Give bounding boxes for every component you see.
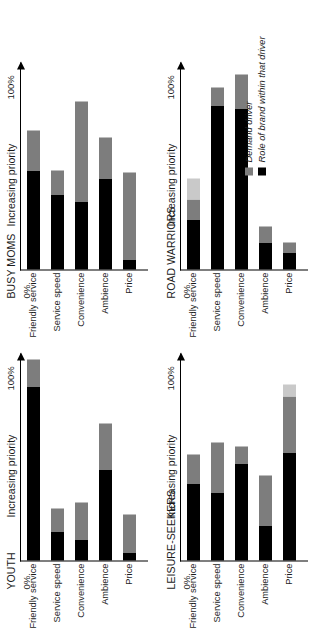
- bar-segment-demand-driver: [123, 172, 136, 259]
- bar-segment-demand-driver: [123, 514, 136, 551]
- bar-segment-role-of-brand: [75, 201, 88, 269]
- category-label: Price: [283, 563, 296, 584]
- axis-label: Increasing priority: [165, 143, 177, 226]
- category-label: Service speed: [51, 563, 64, 622]
- bar-segment-role-of-brand: [283, 452, 296, 560]
- value-axis-arrow: [180, 353, 181, 561]
- category-label: Friendly service: [27, 563, 40, 628]
- bar-segment-demand-driver: [211, 87, 224, 106]
- panel-leisure-seekers: LEISURE-SEEKERS Increasing priority 0% 1…: [163, 304, 327, 595]
- category-label: Price: [123, 272, 136, 293]
- bar-segment-demand-driver: [211, 442, 224, 492]
- legend-item: Role of brand within that driver: [257, 5, 267, 175]
- category-labels: Friendly service Service speed Convenien…: [180, 561, 308, 595]
- bar-segment-extra: [187, 178, 200, 199]
- bar-segment-role-of-brand: [211, 105, 224, 269]
- legend-label: Demand driver: [244, 101, 254, 162]
- bar-segment-role-of-brand: [51, 194, 64, 269]
- bar: [211, 87, 224, 269]
- bar-segment-role-of-brand: [211, 492, 224, 560]
- category-labels: Friendly service Service speed Convenien…: [20, 561, 148, 595]
- legend-item: Demand driver: [244, 5, 254, 175]
- bar: [123, 172, 136, 269]
- bar: [75, 101, 88, 269]
- category-label: Ambience: [99, 563, 112, 604]
- bar: [283, 384, 296, 560]
- axis-label: Increasing priority: [165, 434, 177, 517]
- category-label: Convenience: [75, 272, 88, 326]
- bar-segment-demand-driver: [187, 199, 200, 220]
- bars-group: [185, 353, 307, 560]
- category-label: Convenience: [235, 563, 248, 617]
- axis-label: Increasing priority: [5, 143, 17, 226]
- bar-segment-demand-driver: [99, 137, 112, 178]
- bar-segment-role-of-brand: [99, 469, 112, 560]
- bar: [99, 137, 112, 269]
- bars-group: [25, 353, 147, 560]
- bar-segment-extra: [283, 384, 296, 396]
- legend: Demand driver Role of brand within that …: [244, 5, 270, 175]
- panel-youth: YOUTH Increasing priority 0% 100% Friend…: [3, 304, 163, 595]
- tick-label-max: 100%: [165, 366, 176, 390]
- tick-label-max: 100%: [5, 75, 16, 99]
- category-label: Friendly service: [187, 563, 200, 628]
- role-swatch-icon: [258, 167, 266, 175]
- bar-segment-demand-driver: [259, 475, 272, 525]
- category-label: Friendly service: [187, 272, 200, 337]
- bar-segment-role-of-brand: [27, 170, 40, 269]
- bar: [187, 454, 200, 560]
- bar-segment-role-of-brand: [259, 525, 272, 560]
- category-label: Price: [283, 272, 296, 293]
- legend-label: Role of brand within that driver: [257, 36, 267, 162]
- bar-segment-role-of-brand: [99, 178, 112, 269]
- category-labels: Friendly service Service speed Convenien…: [20, 270, 148, 304]
- bar: [27, 130, 40, 269]
- bar: [283, 242, 296, 269]
- bar-segment-demand-driver: [99, 423, 112, 469]
- bar-segment-demand-driver: [27, 130, 40, 169]
- bar-segment-role-of-brand: [27, 386, 40, 560]
- bar-segment-demand-driver: [235, 446, 248, 463]
- category-label: Ambience: [259, 272, 272, 313]
- bar: [187, 178, 200, 269]
- tick-label-max: 100%: [5, 366, 16, 390]
- bar-segment-demand-driver: [51, 508, 64, 531]
- bar: [259, 226, 272, 269]
- category-label: Convenience: [235, 272, 248, 326]
- bar-segment-role-of-brand: [51, 531, 64, 560]
- bar: [99, 423, 112, 560]
- category-label: Service speed: [211, 563, 224, 622]
- bar-segment-demand-driver: [259, 226, 272, 243]
- panel-title: YOUTH: [5, 552, 17, 589]
- bar: [75, 502, 88, 560]
- value-axis-arrow: [20, 353, 21, 561]
- bar-segment-demand-driver: [187, 454, 200, 483]
- bar: [51, 508, 64, 560]
- category-label: Service speed: [51, 272, 64, 331]
- plot-area: [180, 337, 308, 561]
- plot-area: [20, 337, 148, 561]
- category-label: Convenience: [75, 563, 88, 617]
- tick-label-max: 100%: [165, 75, 176, 99]
- bar: [211, 442, 224, 560]
- bars-group: [25, 62, 147, 269]
- bar: [235, 446, 248, 560]
- bar: [123, 514, 136, 560]
- bar-segment-role-of-brand: [123, 259, 136, 269]
- bar: [51, 170, 64, 269]
- bar-segment-role-of-brand: [123, 552, 136, 560]
- bar: [259, 475, 272, 560]
- bar-segment-role-of-brand: [187, 219, 200, 269]
- bar-segment-demand-driver: [283, 242, 296, 252]
- bar-segment-demand-driver: [75, 502, 88, 539]
- bar-segment-role-of-brand: [75, 539, 88, 560]
- category-label: Ambience: [99, 272, 112, 313]
- driver-swatch-icon: [245, 167, 253, 175]
- bar-segment-demand-driver: [51, 170, 64, 195]
- category-labels: Friendly service Service speed Convenien…: [180, 270, 308, 304]
- panel-title: BUSY MOMS: [5, 233, 17, 298]
- value-axis-arrow: [20, 62, 21, 270]
- value-axis-arrow: [180, 62, 181, 270]
